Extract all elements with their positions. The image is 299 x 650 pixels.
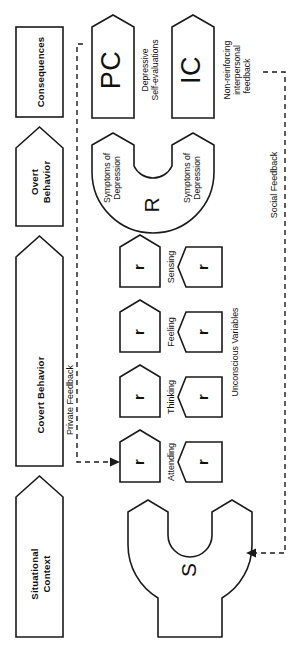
- node-ic-caption-line3: feedback: [242, 58, 252, 94]
- node-pc-caption-line2: Self-evaluations: [150, 39, 160, 100]
- row-feeling: r Feeling r: [120, 300, 222, 352]
- row-attending-overt-symbol: r: [130, 459, 147, 465]
- row-thinking-overt-symbol: r: [130, 394, 147, 400]
- diagram-canvas: Consequences Overt Behavior Covert Behav…: [0, 0, 299, 650]
- node-consequences: Consequences: [16, 27, 63, 117]
- node-ic-caption-line1: Non-reinforcing: [222, 40, 232, 99]
- node-r-arm-top-label-line2: Depression: [112, 156, 122, 200]
- row-feeling-label: Feeling: [166, 317, 176, 347]
- node-situational-context: Situational Context: [16, 476, 63, 637]
- row-thinking-unconscious-symbol: r: [194, 394, 211, 400]
- flow-private-feedback-label: Private Feedback: [65, 364, 75, 435]
- flow-social-feedback: Social Feedback: [246, 72, 285, 558]
- node-ic: IC Non-reinforcing interpersonal feedbac…: [172, 15, 252, 118]
- node-ic-caption-line2: interpersonal: [232, 45, 242, 95]
- row-sensing-overt-shape: [120, 235, 160, 287]
- diagram-svg: Consequences Overt Behavior Covert Behav…: [0, 0, 299, 650]
- node-covert-behavior-label: Covert Behavior: [35, 356, 46, 433]
- row-thinking: r Thinking r: [120, 365, 222, 417]
- node-pc: PC Depressive Self-evaluations: [92, 15, 160, 118]
- row-sensing: r Sensing r: [120, 235, 222, 287]
- node-situational-context-label-line2: Context: [41, 555, 52, 593]
- flow-social-feedback-label: Social Feedback: [269, 151, 279, 218]
- flow-social-feedback-path: [254, 72, 285, 553]
- node-overt-behavior-label-line1: Overt: [29, 168, 40, 195]
- node-pc-label: PC: [96, 51, 126, 90]
- node-ic-label: IC: [176, 56, 206, 84]
- node-r-arm-bottom-label-line2: Depression: [192, 156, 202, 200]
- flow-private-feedback-arrowhead: [110, 458, 120, 467]
- node-consequences-label: Consequences: [35, 37, 46, 108]
- row-feeling-overt-shape: [120, 300, 160, 352]
- node-situational-context-label-line1: Situational: [29, 548, 40, 599]
- row-feeling-overt-symbol: r: [130, 329, 147, 335]
- node-covert-behavior: Covert Behavior: [16, 236, 63, 466]
- node-pc-caption-line1: Depressive: [140, 48, 150, 91]
- node-r: R Symptoms of Depression Symptoms of Dep…: [92, 133, 214, 233]
- row-sensing-unconscious-symbol: r: [194, 264, 211, 270]
- row-sensing-overt-symbol: r: [130, 264, 147, 270]
- row-sensing-label: Sensing: [166, 251, 176, 284]
- node-overt-behavior-label-line2: Behavior: [41, 161, 52, 204]
- row-thinking-label: Thinking: [166, 380, 176, 414]
- node-s-label: S: [177, 563, 200, 577]
- unconscious-variables-label: Unconscious Variables: [230, 307, 240, 396]
- row-attending-label: Attending: [166, 443, 176, 481]
- row-attending-overt-shape: [120, 430, 160, 482]
- node-s: S: [128, 500, 252, 637]
- node-r-label: R: [140, 197, 163, 212]
- row-thinking-overt-shape: [120, 365, 160, 417]
- row-attending-unconscious-symbol: r: [194, 459, 211, 465]
- node-r-arm-top-label-line1: Symptoms of: [102, 152, 112, 203]
- row-attending: r Attending r: [120, 430, 222, 482]
- node-r-arm-bottom-label-line1: Symptoms of: [182, 152, 192, 203]
- row-feeling-unconscious-symbol: r: [194, 329, 211, 335]
- node-overt-behavior: Overt Behavior: [16, 127, 63, 226]
